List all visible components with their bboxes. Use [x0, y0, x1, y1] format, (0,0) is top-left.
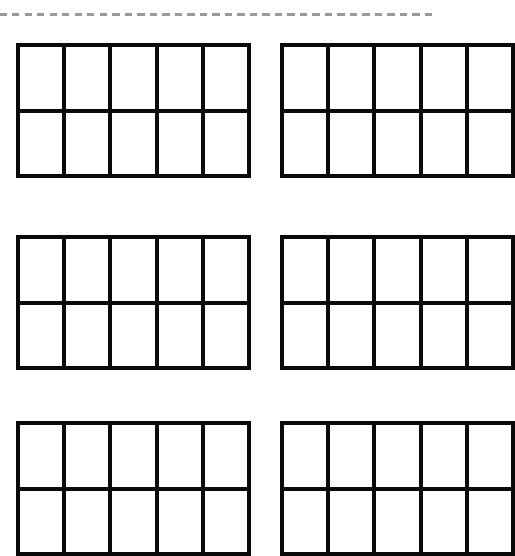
frame-cell — [284, 305, 326, 367]
frame-cell — [330, 113, 372, 175]
frame-cell — [284, 47, 326, 109]
frame-cell — [376, 47, 418, 109]
frame-cell — [469, 425, 511, 487]
frame-cell — [423, 47, 465, 109]
ten-frame-row1-left — [16, 43, 251, 178]
ten-frame-row2-left — [16, 235, 251, 370]
frame-cell — [330, 47, 372, 109]
frame-cell — [469, 47, 511, 109]
frame-cell — [112, 305, 154, 367]
frame-cell — [205, 239, 247, 301]
frame-cell — [159, 305, 201, 367]
frame-cell — [20, 239, 62, 301]
frame-cell — [469, 113, 511, 175]
frame-cell — [112, 239, 154, 301]
frame-cell — [376, 239, 418, 301]
frame-cell — [66, 425, 108, 487]
frame-cell — [66, 305, 108, 367]
frame-cell — [205, 425, 247, 487]
frame-cell — [112, 47, 154, 109]
frame-cell — [205, 113, 247, 175]
frame-cell — [205, 305, 247, 367]
ten-frame-row3-right — [280, 421, 515, 556]
frame-cell — [469, 239, 511, 301]
frame-cell — [376, 113, 418, 175]
frame-cell — [66, 239, 108, 301]
frame-cell — [159, 47, 201, 109]
frame-cell — [66, 491, 108, 553]
frame-cell — [330, 425, 372, 487]
frame-cell — [159, 491, 201, 553]
frame-cell — [423, 305, 465, 367]
ten-frame-row2-right — [280, 235, 515, 370]
frame-cell — [330, 239, 372, 301]
frame-cell — [112, 425, 154, 487]
frame-cell — [66, 47, 108, 109]
frame-cell — [112, 113, 154, 175]
frame-cell — [469, 491, 511, 553]
frame-cell — [20, 305, 62, 367]
frame-cell — [330, 305, 372, 367]
frame-cell — [284, 491, 326, 553]
frame-cell — [469, 305, 511, 367]
frame-cell — [330, 491, 372, 553]
frame-cell — [20, 113, 62, 175]
frame-cell — [20, 47, 62, 109]
frame-cell — [66, 113, 108, 175]
frame-cell — [376, 425, 418, 487]
frame-cell — [376, 305, 418, 367]
frame-cell — [20, 491, 62, 553]
frame-cell — [205, 491, 247, 553]
dashed-cut-line — [0, 13, 433, 16]
frame-cell — [112, 491, 154, 553]
frame-cell — [376, 491, 418, 553]
frame-cell — [159, 425, 201, 487]
frame-cell — [159, 113, 201, 175]
ten-frame-row3-left — [16, 421, 251, 556]
frame-cell — [284, 425, 326, 487]
frame-cell — [284, 113, 326, 175]
frame-cell — [423, 239, 465, 301]
frame-cell — [20, 425, 62, 487]
frame-cell — [205, 47, 247, 109]
frame-cell — [423, 113, 465, 175]
ten-frame-row1-right — [280, 43, 515, 178]
frame-cell — [159, 239, 201, 301]
frame-cell — [284, 239, 326, 301]
frame-cell — [423, 425, 465, 487]
frame-cell — [423, 491, 465, 553]
